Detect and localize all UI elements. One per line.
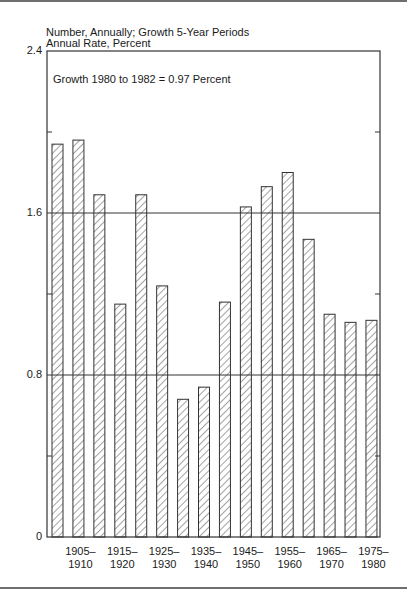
bar-chart-plot [0, 0, 407, 593]
x-tick-label: 1935–1940 [184, 545, 228, 571]
x-tick-label: 1915–1920 [100, 545, 144, 571]
x-tick-label: 1955–1960 [268, 545, 312, 571]
bar-1935–1940 [199, 387, 210, 537]
bar-1915–1920 [115, 304, 126, 537]
bar-1955–1960 [282, 173, 293, 538]
bar-1960–1965 [303, 239, 314, 537]
bar-1970–1975 [345, 322, 356, 537]
x-tick-label: 1965–1970 [310, 545, 354, 571]
growth-annotation: Growth 1980 to 1982 = 0.97 Percent [53, 73, 231, 85]
bar-1920–1925 [136, 195, 147, 537]
x-tick-label: 1945–1950 [226, 545, 270, 571]
bottom-rule [0, 587, 407, 589]
bar-1965–1970 [324, 314, 335, 537]
bar-1930–1935 [178, 399, 189, 537]
bar-1905–1910 [73, 140, 84, 537]
bar-1945–1950 [240, 207, 251, 537]
bar-1975–1980 [366, 320, 377, 537]
x-tick-label: 1975–1980 [351, 545, 395, 571]
bar-1940–1945 [219, 302, 230, 537]
x-tick-label: 1925–1930 [142, 545, 186, 571]
bar-1950–1955 [261, 187, 272, 537]
bar-1925–1930 [157, 286, 168, 537]
x-tick-label: 1905–1910 [58, 545, 102, 571]
bar-1900–1905 [52, 144, 63, 537]
bar-1910–1915 [94, 195, 105, 537]
